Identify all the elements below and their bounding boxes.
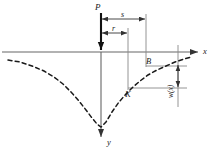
deflection-label-wx: w(x) [166, 84, 175, 98]
deflection-curve [8, 57, 192, 127]
figure-canvas: P s r B K x y w(x) [0, 0, 216, 149]
beam-deflection-figure: P s r B K x y w(x) [0, 0, 216, 149]
point-label-K: K [124, 89, 132, 99]
dimension-label-s: s [121, 10, 124, 19]
point-label-B: B [146, 56, 151, 66]
dimension-label-r: r [112, 24, 116, 33]
axis-label-y: y [106, 137, 111, 147]
axis-label-x: x [202, 46, 207, 56]
load-label-P: P [94, 2, 101, 12]
